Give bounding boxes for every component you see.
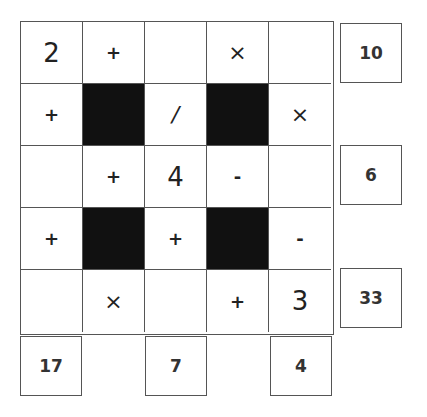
operator-cell: + (21, 84, 83, 146)
row-clue-1: 10 (340, 23, 402, 83)
col-clue-5: 4 (270, 336, 332, 396)
puzzle-grid: 2+×+/×+4-++-×+3 (20, 21, 334, 335)
operator-cell: / (145, 84, 207, 146)
empty-input-cell[interactable] (145, 22, 207, 84)
operator-cell: + (83, 22, 145, 84)
row-clue-3: 6 (340, 145, 402, 205)
operator-cell: × (83, 270, 145, 332)
operator-cell: + (21, 208, 83, 270)
operator-cell: × (269, 84, 331, 146)
given-number-cell: 2 (21, 22, 83, 84)
empty-input-cell[interactable] (269, 146, 331, 208)
operator-cell: - (269, 208, 331, 270)
blocked-cell (207, 208, 269, 270)
operator-cell: + (145, 208, 207, 270)
operator-cell: + (83, 146, 145, 208)
empty-input-cell[interactable] (21, 270, 83, 332)
given-number-cell: 3 (269, 270, 331, 332)
empty-input-cell[interactable] (269, 22, 331, 84)
operator-cell: + (207, 270, 269, 332)
operator-cell: × (207, 22, 269, 84)
empty-input-cell[interactable] (21, 146, 83, 208)
empty-input-cell[interactable] (145, 270, 207, 332)
col-clue-3: 7 (145, 336, 207, 396)
operator-cell: - (207, 146, 269, 208)
blocked-cell (207, 84, 269, 146)
blocked-cell (83, 84, 145, 146)
given-number-cell: 4 (145, 146, 207, 208)
col-clue-1: 17 (20, 336, 82, 396)
row-clue-5: 33 (340, 268, 402, 328)
blocked-cell (83, 208, 145, 270)
